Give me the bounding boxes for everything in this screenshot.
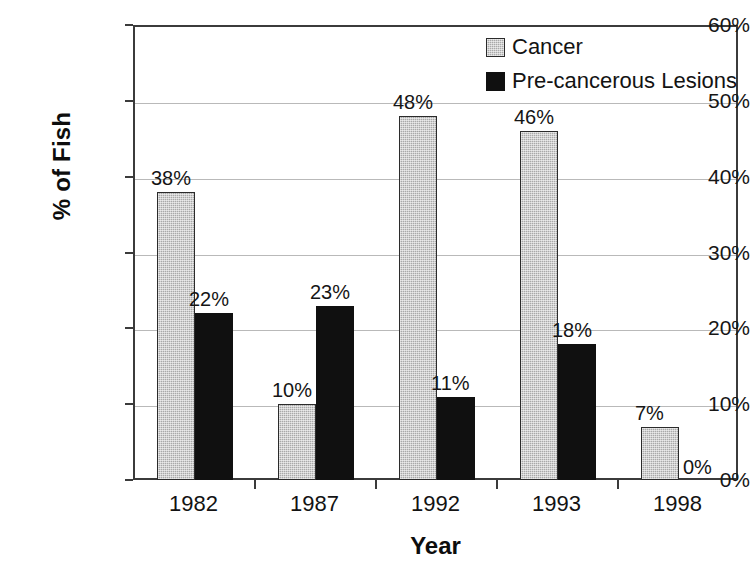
bar-1982-lesions[interactable] (195, 313, 233, 480)
bar-group: 10%23% (254, 25, 375, 480)
x-axis-tick-label: 1992 (411, 491, 460, 517)
bar-1992-lesions[interactable] (437, 397, 475, 480)
black-solid-swatch (486, 72, 505, 91)
legend-item[interactable]: Pre-cancerous Lesions (486, 66, 737, 96)
bar-value-label: 0% (683, 457, 712, 477)
y-axis-tick-mark (125, 327, 133, 329)
bar-1987-cancer[interactable] (278, 404, 316, 480)
y-axis-tick-mark (125, 100, 133, 102)
x-axis-title: Year (133, 532, 738, 560)
bar-value-label: 38% (151, 168, 191, 188)
bar-group: 48%11% (375, 25, 496, 480)
y-axis-tick-mark (125, 24, 133, 26)
bar-value-label: 23% (310, 282, 350, 302)
y-axis-tick-mark (125, 252, 133, 254)
x-axis-tick-label: 1987 (290, 491, 339, 517)
gray-hatched-swatch (486, 38, 505, 57)
legend-item[interactable]: Cancer (486, 32, 737, 62)
y-axis-tick-mark (125, 479, 133, 481)
x-axis-tick-mark (496, 480, 498, 489)
x-axis-tick-label: 1993 (532, 491, 581, 517)
bar-value-label: 18% (552, 320, 592, 340)
x-axis-tick-mark (254, 480, 256, 489)
x-axis-tick-mark (375, 480, 377, 489)
bar-1992-cancer[interactable] (399, 116, 437, 480)
x-axis-tick-label: 1982 (169, 491, 218, 517)
bar-value-label: 48% (393, 92, 433, 112)
y-axis-tick-mark (125, 403, 133, 405)
legend: CancerPre-cancerous Lesions (486, 32, 737, 100)
bar-1987-lesions[interactable] (316, 306, 354, 480)
y-axis-title: % of Fish (48, 66, 76, 266)
bar-value-label: 22% (189, 289, 229, 309)
y-axis-tick-mark (125, 176, 133, 178)
bar-1993-cancer[interactable] (520, 131, 558, 480)
bar-1998-cancer[interactable] (641, 427, 679, 480)
bar-value-label: 10% (272, 380, 312, 400)
bar-chart: % of Fish Year 0%10%20%30%40%50%60% 38%2… (0, 0, 750, 575)
bar-value-label: 46% (514, 107, 554, 127)
legend-item-label: Pre-cancerous Lesions (512, 68, 737, 94)
bar-1982-cancer[interactable] (157, 192, 195, 480)
x-axis-tick-label: 1998 (653, 491, 702, 517)
bar-value-label: 11% (431, 373, 470, 393)
legend-item-label: Cancer (512, 34, 583, 60)
bar-group: 38%22% (133, 25, 254, 480)
x-axis-tick-mark (617, 480, 619, 489)
bar-1993-lesions[interactable] (558, 344, 596, 481)
bar-value-label: 7% (635, 403, 664, 423)
